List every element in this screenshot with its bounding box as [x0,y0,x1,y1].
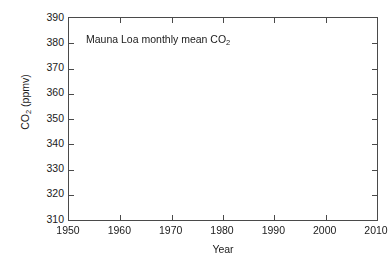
co2-chart-figure: CO2 (ppmv) 310320330340350360370380390 M… [0,0,391,269]
x-axis-tick-label: 1970 [159,224,182,236]
x-axis-tick-label: 1960 [108,224,131,236]
y-axis-tick-label: 380 [0,37,64,48]
y-axis-tick-label: 390 [0,12,64,23]
y-axis-tick [372,94,377,95]
x-axis-tick [120,18,121,23]
x-axis-tick [326,215,327,220]
x-axis-tick [274,215,275,220]
y-axis-tick [69,69,74,70]
y-axis-tick [69,195,74,196]
y-axis-tick-label: 360 [0,87,64,98]
y-axis-tick-label: 370 [0,62,64,73]
x-axis-tick-label: 1950 [56,224,79,236]
y-axis-tick-labels: 310320330340350360370380390 [0,17,64,221]
y-axis-tick [69,170,74,171]
y-axis-tick [372,119,377,120]
y-axis-tick-label: 340 [0,138,64,149]
plot-annotation-title: Mauna Loa monthly mean CO2 [86,33,230,47]
x-axis-tick-label: 1980 [210,224,233,236]
y-axis-tick [372,43,377,44]
y-axis-tick [372,195,377,196]
x-axis-tick-label: 1990 [262,224,285,236]
y-axis-tick [69,43,74,44]
x-axis-tick [326,18,327,23]
x-axis-tick [223,215,224,220]
plot-annotation-title-text: Mauna Loa monthly mean CO [86,33,226,45]
y-axis-tick [372,69,377,70]
plot-annotation-title-subscript: 2 [226,38,230,47]
y-axis-tick-label: 320 [0,188,64,199]
y-axis-tick [372,170,377,171]
y-axis-tick [372,144,377,145]
x-axis-title: Year [68,243,378,255]
x-axis-tick [172,18,173,23]
x-axis-tick-label: 2000 [313,224,336,236]
x-axis-tick [274,18,275,23]
y-axis-tick [69,94,74,95]
plot-area [68,17,378,221]
x-axis-tick [172,215,173,220]
data-series-canvas [69,18,377,220]
y-axis-tick-label: 310 [0,214,64,225]
x-axis-tick-label: 2010 [364,224,387,236]
x-axis-tick [223,18,224,23]
x-axis-tick-labels: 1950196019701980199020002010 [68,224,378,238]
x-axis-tick [120,215,121,220]
y-axis-tick [69,119,74,120]
y-axis-tick-label: 350 [0,113,64,124]
y-axis-tick-label: 330 [0,163,64,174]
y-axis-tick [69,144,74,145]
